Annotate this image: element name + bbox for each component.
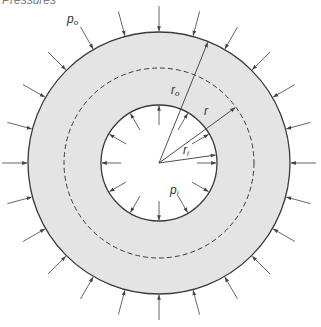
label-p-inner: pi (170, 184, 178, 198)
label-r: r (204, 105, 208, 117)
label-r-inner: ri (183, 144, 189, 158)
label-r-outer: ro (171, 84, 179, 98)
thick-walled-cylinder-diagram (0, 0, 321, 327)
label-p-outer: po (67, 13, 78, 27)
